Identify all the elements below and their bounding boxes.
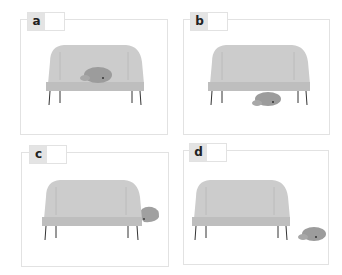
panel-c-label: c: [30, 146, 47, 163]
panel-d-label-tab: d: [189, 143, 227, 162]
panel-b-label-tab: b: [190, 12, 228, 31]
sofa-with-cat-under: [206, 40, 316, 110]
panel-a-label-tab: a: [27, 12, 65, 31]
cat-icon: [252, 92, 281, 106]
panel-b-label: b: [191, 13, 208, 30]
sofa-with-cat-on-seat: [40, 40, 150, 110]
panel-c-label-tab: c: [29, 145, 67, 164]
sofa-with-cat-next-to: [186, 175, 326, 245]
panel-a-label: a: [28, 13, 45, 30]
sofa-with-cat-beside: [38, 175, 163, 245]
cat-icon: [298, 227, 326, 241]
panel-d-label: d: [190, 144, 207, 161]
